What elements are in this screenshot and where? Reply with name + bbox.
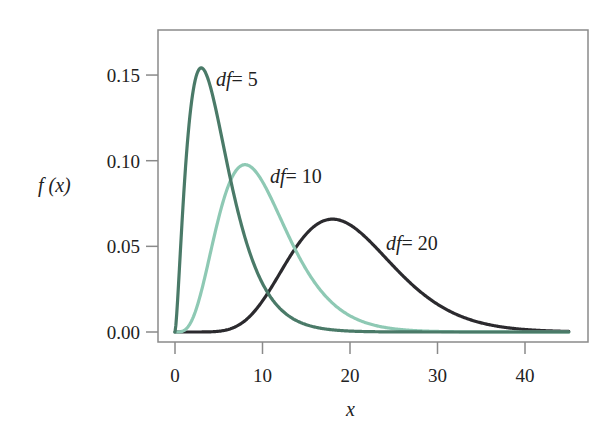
y-tick-label: 0.05 [107, 236, 140, 257]
series-label-df20-value: = 20 [402, 232, 438, 254]
y-tick-label: 0.15 [107, 65, 140, 86]
x-tick-label: 30 [428, 365, 447, 386]
y-axis-title: f (x) [38, 174, 71, 197]
series-group [175, 68, 569, 332]
x-tick-label: 20 [341, 365, 360, 386]
series-label-df20: df= 20 [386, 232, 438, 255]
series-label-df5: df= 5 [216, 68, 258, 91]
curve-df5 [175, 68, 569, 332]
series-label-df10-value: = 10 [286, 165, 322, 187]
x-axis: 010203040 [170, 342, 534, 386]
curve-df20 [175, 219, 569, 332]
x-tick-label: 10 [253, 365, 272, 386]
x-tick-label: 40 [516, 365, 535, 386]
y-tick-label: 0.10 [107, 151, 140, 172]
x-axis-title: x [345, 398, 355, 420]
chi-square-density-chart: 0.000.050.100.15 010203040 df= 5 df= 10 … [0, 0, 616, 448]
series-label-df5-value: = 5 [232, 68, 258, 90]
series-label-df10: df= 10 [270, 165, 322, 188]
y-axis: 0.000.050.100.15 [107, 65, 158, 343]
x-tick-label: 0 [170, 365, 180, 386]
y-tick-label: 0.00 [107, 322, 140, 343]
